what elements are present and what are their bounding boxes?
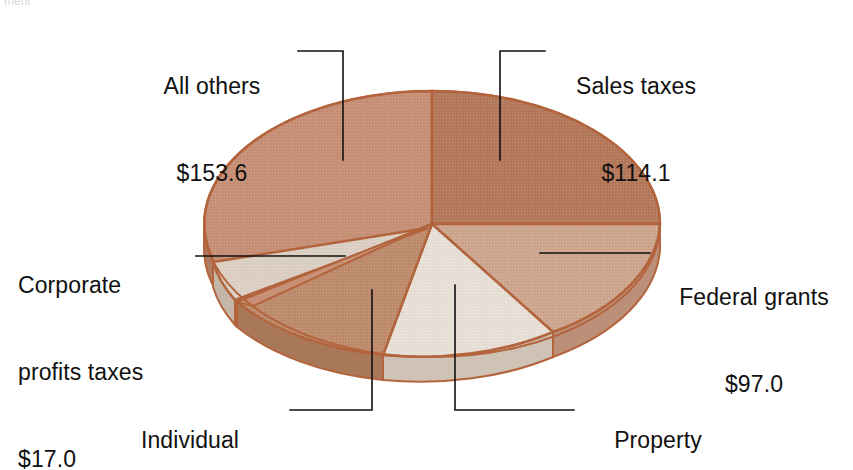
callout-sales-taxes-value: $114.1	[548, 159, 724, 188]
callout-individual-income-taxes: Individual income taxes $64.6	[92, 368, 288, 470]
callout-all-others: All others $153.6	[124, 14, 300, 246]
callout-corporate-profits-taxes-name-line1: Corporate	[18, 271, 208, 300]
callout-property-taxes-name-line1: Property	[578, 426, 738, 455]
callout-all-others-name: All others	[124, 72, 300, 101]
callout-all-others-value: $153.6	[124, 159, 300, 188]
callout-sales-taxes: Sales taxes $114.1	[548, 14, 724, 246]
callout-federal-grants-name: Federal grants	[655, 283, 853, 312]
callout-property-taxes: Property taxes $96.4	[578, 368, 738, 470]
chart-canvas: ment	[0, 0, 853, 470]
callout-sales-taxes-name: Sales taxes	[548, 72, 724, 101]
callout-individual-income-taxes-name-line1: Individual	[92, 426, 288, 455]
